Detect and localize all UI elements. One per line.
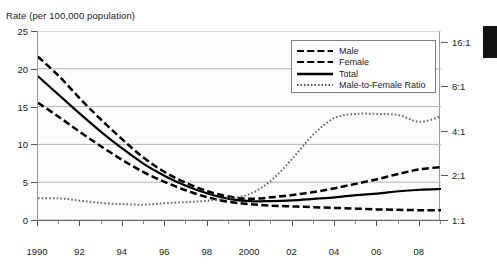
y-axis-right-tick-mark: [441, 220, 448, 221]
legend-swatch-dotted-icon: [297, 80, 333, 90]
legend-item-female: Female: [297, 57, 430, 69]
chart-legend: Male Female Total Male-to-Female Ratio: [291, 40, 436, 93]
x-axis-major-tick: [334, 221, 335, 226]
x-axis-major-tick: [207, 221, 208, 226]
y-axis-left-label: 5: [0, 182, 28, 193]
x-axis-minor-tick: [440, 221, 441, 224]
x-axis-major-tick: [249, 221, 250, 226]
x-axis-label: 94: [117, 246, 128, 257]
x-axis-minor-tick: [313, 221, 314, 224]
x-axis-major-tick: [164, 221, 165, 226]
x-axis-minor-tick: [270, 221, 271, 224]
x-axis-label: 08: [413, 246, 424, 257]
x-axis-label: 2000: [239, 246, 260, 257]
legend-label-total: Total: [339, 69, 358, 79]
y-axis-right-label: 4:1: [452, 131, 465, 142]
x-axis-major-tick: [122, 221, 123, 226]
y-axis-left-tick-mark: [31, 69, 37, 70]
x-axis-minor-tick: [58, 221, 59, 224]
x-axis-major-tick: [292, 221, 293, 226]
x-axis-label: 1990: [26, 246, 47, 257]
x-axis-label: 98: [201, 246, 212, 257]
legend-swatch-solid-icon: [297, 69, 333, 79]
x-axis-major-tick: [376, 221, 377, 226]
legend-item-male: Male: [297, 45, 430, 57]
legend-item-total: Total: [297, 68, 430, 80]
x-axis-major-tick: [79, 221, 80, 226]
y-axis-right-label: 8:1: [452, 86, 465, 97]
y-axis-right-tick-mark: [441, 131, 448, 132]
x-axis-label: 04: [329, 246, 340, 257]
legend-swatch-dashed-icon: [297, 46, 333, 56]
y-axis-right-tick-mark: [441, 86, 448, 87]
y-axis-left-tick-mark: [31, 144, 37, 145]
x-axis-minor-tick: [398, 221, 399, 224]
x-axis-label: 06: [371, 246, 382, 257]
x-axis-label: 92: [74, 246, 85, 257]
x-axis-minor-tick: [143, 221, 144, 224]
y-axis-left-tick-mark: [31, 31, 37, 32]
y-axis-left-tick-mark: [31, 182, 37, 183]
legend-label-male: Male: [339, 46, 359, 56]
x-axis-major-tick: [419, 221, 420, 226]
y-axis-left-tick-mark: [31, 107, 37, 108]
y-axis-right-label: 2:1: [452, 175, 465, 186]
x-axis-label: 96: [159, 246, 170, 257]
chart-figure: Rate (per 100,000 population) 0510152025…: [0, 0, 497, 268]
y-axis-title: Rate (per 100,000 population): [6, 10, 135, 21]
legend-label-ratio: Male-to-Female Ratio: [339, 80, 426, 90]
x-axis-minor-tick: [228, 221, 229, 224]
edge-artifact-block: [483, 26, 497, 58]
series-line-male-to-female-ratio: [38, 114, 441, 205]
y-axis-left-label: 0: [0, 220, 28, 231]
y-axis-right-tick-mark: [441, 42, 448, 43]
y-axis-right-label: 16:1: [452, 42, 471, 53]
y-axis-right-label: 1:1: [452, 220, 465, 231]
x-axis-label: 02: [286, 246, 297, 257]
legend-label-female: Female: [339, 57, 369, 67]
x-axis-line: [37, 220, 441, 221]
x-axis-major-tick: [37, 221, 38, 226]
y-axis-left-label: 15: [0, 107, 28, 118]
x-axis-minor-tick: [101, 221, 102, 224]
y-axis-left-label: 20: [0, 69, 28, 80]
legend-swatch-dashed-icon: [297, 57, 333, 67]
legend-item-ratio: Male-to-Female Ratio: [297, 80, 430, 92]
y-axis-right-tick-mark: [441, 175, 448, 176]
y-axis-left-label: 25: [0, 31, 28, 42]
x-axis-minor-tick: [185, 221, 186, 224]
y-axis-left-label: 10: [0, 144, 28, 155]
x-axis-minor-tick: [355, 221, 356, 224]
